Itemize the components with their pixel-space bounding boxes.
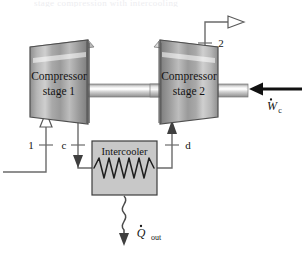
compressor-stage-2: Compressor stage 2 [154, 40, 218, 124]
outlet-arrow-hollow-state-2 [228, 16, 244, 28]
work-input-symbol: W [267, 99, 278, 113]
compressor-stage-1-edge-shade [86, 41, 90, 123]
compressor-stage-2-edge-shade [158, 41, 162, 123]
state-label-2: 2 [218, 37, 224, 49]
flow-arrow-solid-state-c [73, 155, 83, 168]
two-stage-compressor-diagram: stage compression with intercooling [0, 0, 305, 255]
compressor-stage-1-body [30, 40, 88, 124]
heat-rejection-wavy-line [122, 196, 125, 236]
state-label-c: c [62, 139, 67, 151]
compressor-stage-2-label-line1: Compressor [161, 70, 217, 83]
heat-rejection-subscript: out [151, 233, 162, 242]
heat-rejection-label: Q out [137, 225, 162, 242]
compressor-stage-1-label-line1: Compressor [31, 70, 87, 83]
compressor-stage-1: Compressor stage 1 [30, 40, 94, 124]
work-input-arrowhead [249, 83, 263, 96]
work-input-arrow [249, 83, 302, 96]
compressor-stage-2-label-line2: stage 2 [173, 85, 206, 98]
compressor-stage-2-body [160, 40, 218, 124]
intercooler: Intercooler [92, 141, 157, 195]
work-input-label: W c [267, 98, 282, 115]
heat-rejection-arrow [119, 196, 129, 246]
work-input-overdot [270, 98, 272, 100]
diagram-canvas: Compressor stage 1 Compressor stage 2 In… [0, 0, 305, 255]
drive-shaft-stub-right [218, 84, 248, 97]
inlet-pipe-state-1 [3, 126, 46, 172]
state-label-d: d [185, 139, 191, 151]
work-input-subscript: c [278, 106, 282, 115]
compressor-stage-1-label-line2: stage 1 [43, 85, 76, 98]
heat-rejection-arrowhead [119, 233, 129, 246]
heat-rejection-symbol: Q [137, 226, 146, 240]
heat-rejection-overdot [140, 225, 142, 227]
intercooler-label: Intercooler [101, 146, 148, 157]
state-label-1: 1 [28, 139, 34, 151]
